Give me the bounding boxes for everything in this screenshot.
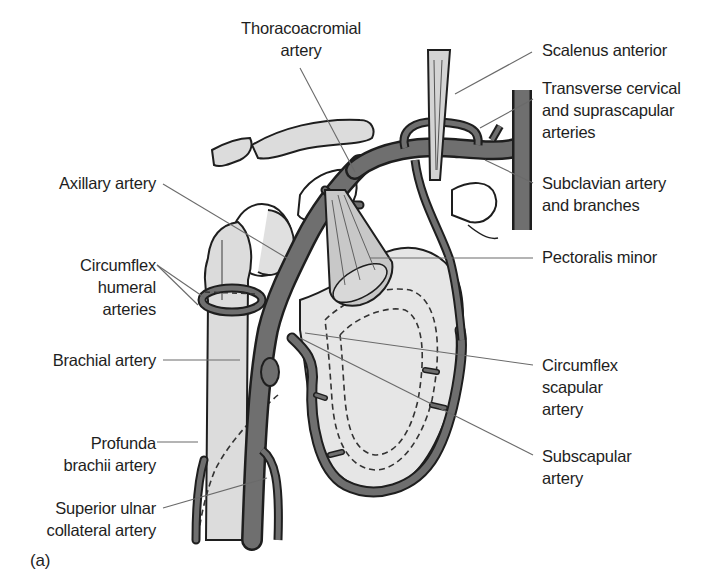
label-brachial-artery: Brachial artery: [0, 349, 156, 371]
label-subclavian-artery: Subclavian artery and branches: [542, 172, 666, 216]
label-superior-ulnar-collateral-artery: Superior ulnar collateral artery: [0, 497, 156, 541]
label-scalenus-anterior: Scalenus anterior: [542, 39, 667, 61]
panel-label: (a): [30, 550, 50, 572]
label-profunda-brachii-artery: Profunda brachii artery: [0, 432, 156, 476]
clavicle: [252, 120, 374, 159]
label-thoracoacromial-artery: Thoracoacromial artery: [230, 17, 372, 61]
label-circumflex-scapular-artery: Circumflex scapular artery: [542, 354, 618, 420]
label-subscapular-artery: Subscapular artery: [542, 445, 632, 489]
label-circumflex-humeral-arteries: Circumflex humeral arteries: [0, 254, 156, 320]
label-axillary-artery: Axillary artery: [0, 172, 156, 194]
label-transverse-cervical-suprascapular: Transverse cervical and suprascapular ar…: [542, 77, 681, 143]
label-pectoralis-minor: Pectoralis minor: [542, 246, 657, 268]
